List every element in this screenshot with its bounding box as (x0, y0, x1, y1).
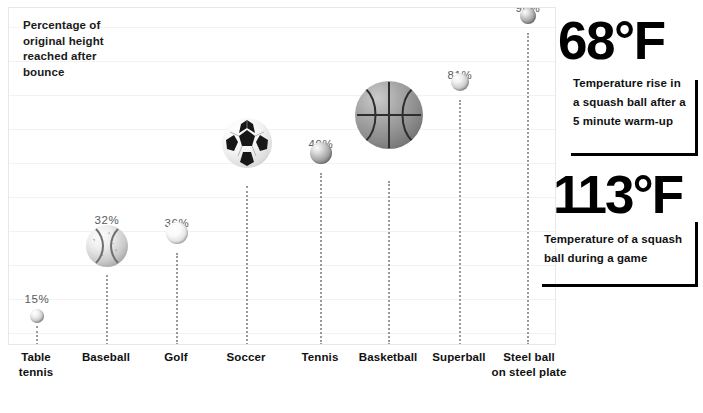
chart-panel: Percentage of original height reached af… (8, 7, 556, 345)
soccer-ball-icon (222, 118, 272, 168)
callout-temperature-rise: 68°F Temperature rise in a squash ball a… (556, 14, 703, 131)
axis-label-line: Baseball (82, 350, 130, 365)
soccer-ball-pattern (222, 118, 272, 168)
axis-label-line: Tennis (302, 350, 339, 365)
gridline (9, 163, 555, 164)
gridline (9, 129, 555, 130)
x-axis-labels: Table tennis Baseball Golf Soccer Tennis… (8, 350, 556, 410)
superball-icon (451, 73, 469, 91)
axis-label-superball: Superball (432, 350, 485, 365)
stem-line (527, 33, 529, 345)
tennis-ball-icon (310, 142, 332, 164)
axis-label-tennis: Tennis (302, 350, 339, 365)
axis-label-line: tennis (19, 365, 53, 380)
baseball-icon (86, 225, 128, 267)
axis-label-soccer: Soccer (227, 350, 266, 365)
axis-label-line: Soccer (227, 350, 266, 365)
callout-game-temperature: 113°F Temperature of a squash ball durin… (556, 168, 703, 268)
callout-value: 113°F (553, 168, 703, 222)
gridline (9, 95, 555, 96)
stem-line (459, 100, 461, 345)
gridline (9, 197, 555, 198)
basketball-icon (355, 81, 423, 149)
gridline (9, 333, 555, 334)
golf-ball-icon (166, 222, 188, 244)
axis-label-basketball: Basketball (359, 350, 418, 365)
chart-title-line-3: reached after (23, 49, 173, 65)
gridline (9, 299, 555, 300)
table-tennis-ball-icon (30, 309, 44, 323)
axis-label-line: Table (19, 350, 53, 365)
axis-label-baseball: Baseball (82, 350, 130, 365)
stem-line (36, 326, 38, 345)
stem-line (176, 253, 178, 345)
callout-value: 68°F (558, 14, 703, 68)
stem-line (106, 275, 108, 345)
stem-line (246, 186, 248, 345)
axis-label-table-tennis: Table tennis (19, 350, 53, 380)
chart-title-line-2: original height (23, 34, 173, 50)
steel-ball-icon (520, 8, 536, 24)
callout-bracket (542, 222, 698, 287)
basketball-seams (355, 81, 423, 149)
chart-title: Percentage of original height reached af… (23, 18, 173, 80)
axis-label-golf: Golf (164, 350, 187, 365)
value-label: 15% (25, 293, 50, 305)
axis-label-line: Golf (164, 350, 187, 365)
stem-line (320, 173, 322, 345)
stem-line (388, 181, 390, 345)
chart-title-line-1: Percentage of (23, 18, 173, 34)
axis-label-line: Basketball (359, 350, 418, 365)
infographic-root: Percentage of original height reached af… (0, 0, 703, 413)
chart-title-line-4: bounce (23, 65, 173, 81)
axis-label-line: Superball (432, 350, 485, 365)
callout-panel: 68°F Temperature rise in a squash ball a… (556, 0, 703, 413)
callout-bracket (571, 80, 698, 156)
